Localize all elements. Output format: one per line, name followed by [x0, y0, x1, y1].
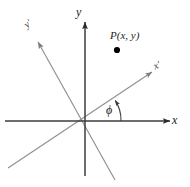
- y-prime-axis-line: [38, 42, 115, 180]
- angle-arc: [115, 100, 121, 121]
- x-prime-axis-line: [8, 72, 152, 168]
- point-marker-p: [114, 47, 120, 53]
- point-label-p: P(x, y): [110, 30, 139, 41]
- rotated-axes-diagram: y x y′ x′ P(x, y) ϕ: [0, 0, 190, 187]
- x-axis-label: x: [172, 114, 177, 126]
- y-axis-label: y: [76, 6, 81, 18]
- angle-label-phi: ϕ: [106, 104, 112, 116]
